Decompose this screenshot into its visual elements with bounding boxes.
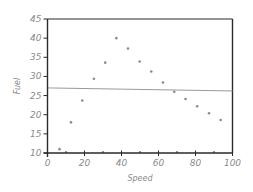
scatter-chart: 020406080100 1015202530354045 Speed Fuel <box>0 0 253 192</box>
y-tick-label: 40 <box>30 33 42 43</box>
data-point <box>58 148 61 151</box>
data-point <box>70 121 73 124</box>
data-point <box>208 112 211 115</box>
y-tick-label: 30 <box>30 71 42 81</box>
data-point <box>104 61 107 64</box>
data-point <box>115 37 118 40</box>
y-tick-label: 25 <box>30 91 42 101</box>
data-point <box>173 90 176 93</box>
data-point <box>219 119 222 122</box>
data-point <box>127 47 130 50</box>
data-point <box>196 105 199 108</box>
fit-line <box>48 88 233 91</box>
data-point <box>150 70 153 73</box>
x-tick-label: 80 <box>190 158 202 168</box>
x-tick-label: 100 <box>224 158 241 168</box>
y-axis-label: Fuel <box>13 77 22 94</box>
data-point <box>138 60 141 63</box>
data-point <box>93 77 96 80</box>
x-tick-label: 20 <box>79 158 91 168</box>
y-axis: 1015202530354045 <box>30 14 47 158</box>
data-point <box>184 98 187 101</box>
x-axis: 020406080100 <box>44 151 242 169</box>
x-tick-label: 0 <box>45 158 51 168</box>
regression-line <box>48 88 233 91</box>
data-point <box>81 99 84 102</box>
x-tick-label: 40 <box>116 158 128 168</box>
y-tick-label: 15 <box>30 129 42 139</box>
y-tick-label: 10 <box>30 148 42 158</box>
y-tick-label: 20 <box>30 110 42 120</box>
y-tick-label: 45 <box>30 14 42 24</box>
y-tick-label: 35 <box>30 52 42 62</box>
data-point <box>162 81 165 84</box>
x-axis-label: Speed <box>127 174 153 183</box>
data-points <box>58 37 222 151</box>
x-tick-label: 60 <box>153 158 165 168</box>
plot-frame <box>48 19 233 153</box>
